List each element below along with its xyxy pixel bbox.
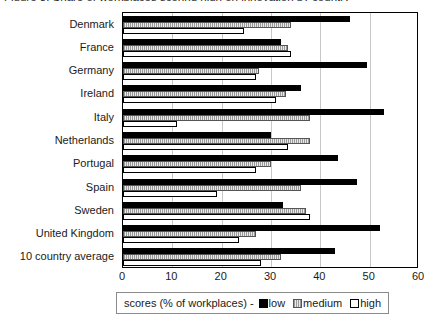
bar-high [123, 28, 244, 34]
bar-group [123, 155, 417, 173]
y-axis-label: Portugal [73, 157, 114, 169]
x-axis-tick-label: 10 [165, 270, 177, 283]
y-axis-label: Italy [94, 111, 114, 123]
x-axis-tick-label: 40 [313, 270, 325, 283]
y-axis-label: Spain [86, 181, 114, 193]
bar-high [123, 237, 239, 243]
y-axis-label: United Kingdom [36, 227, 114, 239]
bar-group [123, 248, 417, 266]
bar-group [123, 109, 417, 127]
x-axis-tick-label: 20 [215, 270, 227, 283]
x-axis-tick-label: 30 [264, 270, 276, 283]
bar-high [123, 51, 291, 57]
y-axis-category-labels: DenmarkFranceGermanyIrelandItalyNetherla… [0, 12, 118, 268]
y-axis-label: Sweden [74, 204, 114, 216]
legend-swatch-high-icon [350, 299, 359, 308]
bar-group [123, 225, 417, 243]
bar-high [123, 191, 217, 197]
legend-label-low: low [269, 297, 286, 309]
legend-swatch-low-icon [259, 299, 268, 308]
chart-legend: scores (% of workplaces) - low medium hi… [116, 292, 389, 314]
bar-group [123, 202, 417, 220]
y-axis-label: France [80, 41, 114, 53]
bar-group [123, 85, 417, 103]
legend-label-high: high [360, 297, 381, 309]
legend-title: scores (% of workplaces) - [124, 297, 254, 309]
legend-entry-high: high [350, 297, 381, 309]
bar-high [123, 167, 256, 173]
bar-chart: Figure 3: Share of workplaces scoring hi… [0, 0, 436, 327]
legend-label-medium: medium [303, 297, 342, 309]
x-axis-tick-label: 60 [412, 270, 424, 283]
bars-layer [123, 13, 417, 267]
y-axis-label: Denmark [69, 18, 114, 30]
x-axis-tick-label: 0 [119, 270, 125, 283]
chart-title: Figure 3: Share of workplaces scoring hi… [4, 0, 424, 1]
bar-group [123, 16, 417, 34]
bar-high [123, 144, 288, 150]
bar-high [123, 214, 310, 220]
bar-high [123, 121, 177, 127]
y-axis-label: 10 country average [20, 250, 114, 262]
bar-group [123, 179, 417, 197]
y-axis-label: Netherlands [55, 134, 114, 146]
plot-area [122, 12, 418, 268]
bar-high [123, 97, 276, 103]
x-axis-tick-labels: 0102030405060 [0, 270, 436, 284]
x-axis-tick-label: 50 [363, 270, 375, 283]
bar-group [123, 132, 417, 150]
y-axis-label: Germany [69, 64, 114, 76]
legend-entry-medium: medium [293, 297, 342, 309]
bar-high [123, 260, 261, 266]
bar-group [123, 62, 417, 80]
bar-high [123, 74, 256, 80]
y-axis-label: Ireland [80, 87, 114, 99]
legend-swatch-medium-icon [293, 299, 302, 308]
bar-group [123, 39, 417, 57]
legend-entry-low: low [259, 297, 286, 309]
